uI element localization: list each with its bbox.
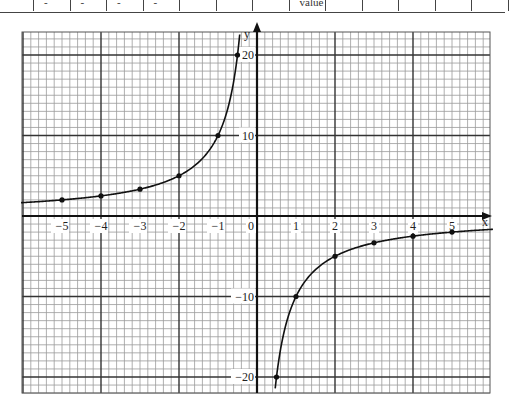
y-tick-label: 20 — [242, 48, 254, 62]
axes — [22, 22, 492, 393]
y-axis-arrow-icon — [253, 22, 261, 32]
data-point — [449, 230, 454, 235]
x-tick-label: 0 — [248, 219, 254, 233]
y-axis-label: y — [244, 27, 250, 41]
data-point — [98, 193, 103, 198]
data-point — [137, 187, 142, 192]
data-point — [235, 52, 240, 57]
data-point — [293, 294, 298, 299]
x-tick-label: −5 — [56, 219, 69, 233]
table-cell — [508, 0, 513, 11]
data-point — [332, 254, 337, 259]
x-tick-label: 3 — [371, 219, 377, 233]
y-tick-label: −20 — [235, 370, 254, 384]
x-axis-label: x — [482, 215, 488, 229]
data-point — [371, 240, 376, 245]
x-tick-label: 2 — [332, 219, 338, 233]
data-point — [274, 374, 279, 379]
x-tick-label: 1 — [293, 219, 299, 233]
x-tick-label: −1 — [212, 219, 225, 233]
data-point — [215, 133, 220, 138]
y-tick-label: −10 — [235, 290, 254, 304]
data-point — [410, 234, 415, 239]
x-tick-label: −2 — [173, 219, 186, 233]
data-point — [59, 197, 64, 202]
x-tick-label: −4 — [95, 219, 108, 233]
curve-positive-x — [275, 229, 493, 388]
y-tick-label: 10 — [242, 129, 254, 143]
data-point — [176, 173, 181, 178]
x-tick-label: 4 — [410, 219, 416, 233]
x-tick-label: −3 — [134, 219, 147, 233]
